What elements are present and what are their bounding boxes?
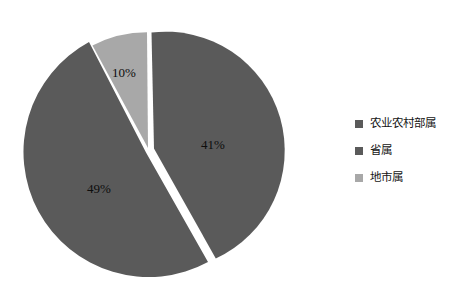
- legend-label-agriculture-ministry: 农业农村部属: [370, 118, 436, 130]
- pie-label-41: 41%: [201, 137, 225, 152]
- legend-item-city[interactable]: 地市属: [355, 164, 465, 191]
- pie-label-10: 10%: [112, 65, 136, 80]
- legend-item-agriculture-ministry[interactable]: 农业农村部属: [355, 110, 465, 137]
- legend-item-province[interactable]: 省属: [355, 137, 465, 164]
- pie-slices: [23, 32, 284, 277]
- legend-label-city: 地市属: [370, 172, 403, 184]
- legend-swatch-icon: [355, 147, 363, 155]
- pie-label-49: 49%: [87, 181, 111, 196]
- legend-label-province: 省属: [370, 145, 392, 157]
- chart-legend: 农业农村部属 省属 地市属: [355, 110, 465, 191]
- pie-chart-figure: 41% 49% 10% 农业农村部属 省属 地市属: [0, 0, 468, 298]
- legend-swatch-icon: [355, 174, 363, 182]
- legend-swatch-icon: [355, 120, 363, 128]
